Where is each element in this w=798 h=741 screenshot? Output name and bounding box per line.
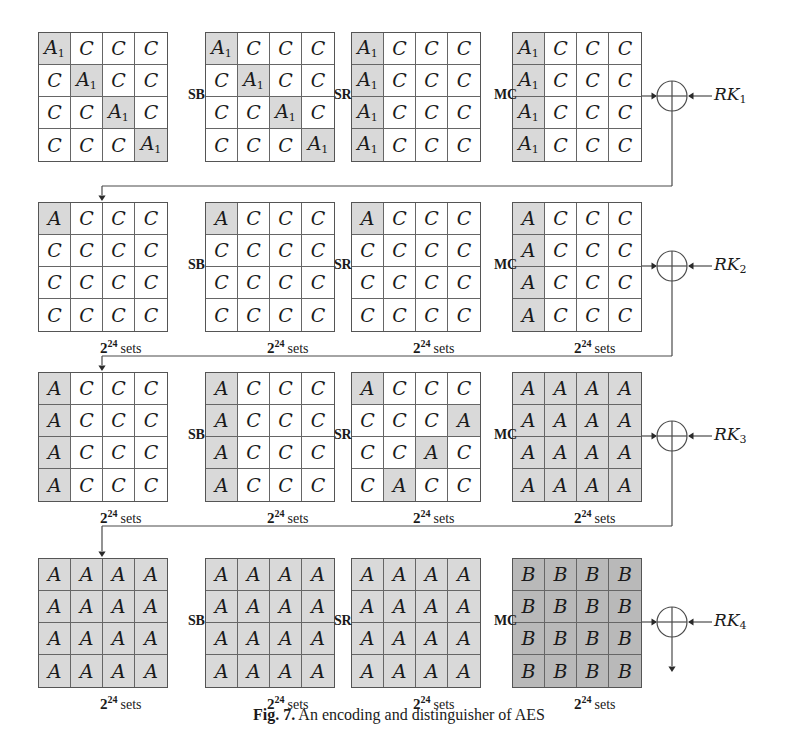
state-cell: C [448,373,480,405]
state-cell: C [270,469,302,501]
state-cell: A [513,267,545,299]
state-cell: C [103,65,135,97]
state-cell: C [302,65,334,97]
state-cell: C [103,405,135,437]
state-cell: C [448,203,480,235]
state-cell: C [609,299,641,331]
state-cell: A [448,655,480,687]
op-label-shift-rows-round1: SR [334,87,351,103]
state-cell: A [545,469,577,501]
state-cell: A [545,437,577,469]
state-cell: C [135,267,167,299]
state-cell: C [384,65,416,97]
state-cell: A [270,655,302,687]
state-grid-round4-after-SR: AAAAAAAAAAAAAAAA [351,558,481,688]
state-cell: C [71,203,103,235]
state-cell: C [416,33,448,65]
state-cell: A [513,437,545,469]
state-cell: C [545,65,577,97]
state-cell: A [448,405,480,437]
state-cell: A [206,437,238,469]
state-cell: C [103,299,135,331]
state-cell: C [206,129,238,161]
state-cell: A [206,203,238,235]
state-cell: A [39,591,71,623]
state-cell: C [206,97,238,129]
state-cell: A [135,655,167,687]
state-cell: A [416,623,448,655]
state-cell: A [352,623,384,655]
state-cell: A [39,405,71,437]
state-cell: A [206,469,238,501]
state-cell: C [71,235,103,267]
state-cell: C [545,97,577,129]
state-cell: C [609,97,641,129]
arrow-into-round2 [98,196,105,202]
op-label-mix-columns-round3: MC [494,427,517,443]
state-cell: C [448,437,480,469]
state-cell: A [416,655,448,687]
state-cell: C [352,299,384,331]
round-key-label-RK1: RK1 [714,84,747,106]
state-cell: C [352,405,384,437]
state-cell: C [238,437,270,469]
op-label-shift-rows-round4: SR [334,613,351,629]
state-cell: A [270,559,302,591]
state-cell: A1 [513,65,545,97]
state-cell: A [448,559,480,591]
state-cell: C [577,33,609,65]
state-cell: B [609,559,641,591]
state-cell: C [302,97,334,129]
state-cell: C [39,65,71,97]
state-cell: B [609,591,641,623]
state-cell: C [577,235,609,267]
sets-label-round3-col2: 224sets [267,508,309,527]
arrow-into-xor-round1 [652,92,658,99]
state-cell: A1 [135,129,167,161]
state-cell: C [448,65,480,97]
state-cell: A [135,591,167,623]
state-cell: A [448,623,480,655]
sets-label-round2-col4: 224sets [574,338,616,357]
state-cell: C [352,267,384,299]
state-cell: C [71,129,103,161]
state-cell: C [135,65,167,97]
state-cell: C [71,405,103,437]
state-cell: A [384,469,416,501]
state-cell: C [206,299,238,331]
state-cell: C [270,267,302,299]
state-cell: C [416,65,448,97]
state-cell: B [577,623,609,655]
state-cell: A [352,559,384,591]
state-cell: B [577,591,609,623]
state-cell: A [352,591,384,623]
state-cell: C [545,235,577,267]
state-cell: C [71,437,103,469]
state-cell: C [238,33,270,65]
state-cell: C [103,373,135,405]
state-cell: A [103,655,135,687]
sets-label-round2-col2: 224sets [267,338,309,357]
state-cell: C [609,267,641,299]
state-cell: A [135,559,167,591]
state-cell: C [103,437,135,469]
state-cell: A [39,623,71,655]
op-label-shift-rows-round2: SR [334,257,351,273]
state-cell: C [135,97,167,129]
state-cell: C [609,203,641,235]
state-cell: A [39,203,71,235]
state-cell: C [135,299,167,331]
state-cell: C [135,437,167,469]
state-cell: C [71,33,103,65]
state-cell: C [238,405,270,437]
state-cell: C [71,97,103,129]
state-cell: C [384,235,416,267]
state-grid-round2-after-SB: ACCCCCCCCCCCCCCC [205,202,335,332]
state-cell: A1 [71,65,103,97]
state-cell: C [384,267,416,299]
state-cell: C [448,267,480,299]
state-cell: C [416,299,448,331]
state-grid-round1-after-MC: A1CCCA1CCCA1CCCA1CCC [512,32,642,162]
state-cell: C [448,469,480,501]
state-cell: B [513,591,545,623]
